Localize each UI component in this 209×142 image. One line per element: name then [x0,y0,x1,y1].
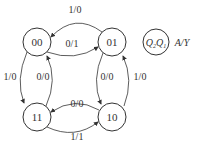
state-10: 10 [98,103,126,131]
transition-00-01-label: 0/1 [66,38,79,49]
state-11-label: 11 [32,111,43,123]
state-01-label: 01 [107,36,118,48]
state-diagram: 00 01 11 10 1/0 0/1 1/0 0/0 0/0 1/0 0/0 … [0,0,209,142]
transition-01-00-label: 1/0 [69,4,82,15]
transition-11-00-label: 0/0 [37,71,50,82]
transition-00-11 [20,52,27,103]
transition-01-10-label: 0/0 [101,71,114,82]
state-01: 01 [98,28,126,56]
transition-01-00 [51,23,102,37]
state-00: 00 [23,28,51,56]
legend: Q2Q1 A/Y [143,29,191,55]
legend-io-label: A/Y [174,37,191,48]
legend-state-label: Q2Q1 [146,37,166,49]
transition-10-01 [123,56,129,106]
transition-11-10-label: 1/1 [71,131,84,142]
state-00-label: 00 [32,36,44,48]
state-10-label: 10 [107,111,119,123]
transition-10-11-label: 0/0 [71,98,84,109]
state-11: 11 [23,103,51,131]
transition-10-01-label: 1/0 [134,71,147,82]
transition-00-11-label: 1/0 [4,71,17,82]
